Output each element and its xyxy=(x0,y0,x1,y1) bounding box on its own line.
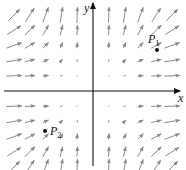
vector-arrow-icon xyxy=(165,147,178,156)
vector-arrow-icon xyxy=(152,160,161,170)
vector-arrow-icon xyxy=(138,120,144,122)
vector-arrow-icon xyxy=(123,59,125,61)
vector-arrow-icon xyxy=(138,75,144,76)
vector-arrow-icon xyxy=(60,75,62,76)
vector-arrow-icon xyxy=(6,120,22,122)
vector-arrow-icon xyxy=(123,159,125,170)
vector-arrow-icon xyxy=(166,161,177,170)
vector-arrow-icon xyxy=(60,43,62,49)
vector-arrow-icon xyxy=(43,134,49,140)
vector-arrow-icon xyxy=(60,106,62,107)
vector-arrow-icon xyxy=(164,59,180,61)
vector-arrow-icon xyxy=(138,43,144,49)
vector-arrow-icon xyxy=(138,134,144,140)
vector-arrow-icon xyxy=(151,120,161,122)
vector-arrow-icon xyxy=(7,26,20,35)
vector-arrow-icon xyxy=(6,59,22,61)
vector-arrow-icon xyxy=(123,147,125,157)
vector-arrow-icon xyxy=(25,75,35,76)
vector-arrow-icon xyxy=(8,9,19,20)
point-p1-label: P1 xyxy=(148,33,159,50)
vector-arrow-icon xyxy=(25,134,35,140)
point-p2-label: P2 xyxy=(50,125,61,142)
vector-arrow-icon xyxy=(108,159,109,170)
vector-arrow-icon xyxy=(164,75,180,76)
vector-arrow-icon xyxy=(77,159,78,170)
vector-arrow-icon xyxy=(6,134,21,139)
vector-arrow-icon xyxy=(25,160,34,170)
vector-arrow-icon xyxy=(77,59,78,61)
vector-arrow-icon xyxy=(77,43,78,49)
vector-arrow-icon xyxy=(8,161,19,170)
vector-arrow-icon xyxy=(43,25,49,35)
vector-arrow-icon xyxy=(25,25,35,35)
vector-arrow-icon xyxy=(77,120,78,122)
vector-arrow-icon xyxy=(138,147,144,157)
vector-arrow-icon xyxy=(138,7,143,22)
vector-arrow-icon xyxy=(77,7,78,23)
vector-arrow-icon xyxy=(108,75,109,76)
vector-arrow-icon xyxy=(77,106,78,107)
vector-arrow-icon xyxy=(25,43,35,49)
vector-arrow-icon xyxy=(60,7,62,23)
vector-arrow-icon xyxy=(43,43,49,49)
vector-arrow-icon xyxy=(164,106,180,107)
vector-arrow-icon xyxy=(43,75,49,76)
vector-field-plot xyxy=(0,0,186,170)
vector-arrow-icon xyxy=(151,75,161,76)
vector-arrow-icon xyxy=(60,147,62,157)
vector-arrow-icon xyxy=(123,25,125,35)
vector-arrow-icon xyxy=(108,7,109,23)
vector-arrow-icon xyxy=(123,7,125,23)
vector-arrow-icon xyxy=(138,59,144,61)
vector-arrow-icon xyxy=(25,120,35,122)
vector-arrow-icon xyxy=(123,75,125,76)
vector-arrow-icon xyxy=(6,43,21,48)
vector-arrow-icon xyxy=(60,59,62,61)
vector-arrow-icon xyxy=(138,25,144,35)
vector-arrow-icon xyxy=(7,147,20,156)
point-p2-marker xyxy=(43,129,47,133)
vector-arrow-icon xyxy=(77,75,78,76)
vector-arrow-icon xyxy=(151,134,161,140)
vector-arrow-icon xyxy=(60,25,62,35)
vector-arrow-icon xyxy=(123,43,125,49)
vector-arrow-icon xyxy=(43,59,49,61)
vector-arrow-icon xyxy=(25,147,35,157)
vector-arrow-icon xyxy=(152,8,161,21)
vector-arrow-icon xyxy=(108,134,109,140)
vector-arrow-icon xyxy=(108,106,109,107)
vector-arrow-icon xyxy=(6,106,22,107)
vector-arrow-icon xyxy=(123,106,125,107)
vector-arrow-icon xyxy=(165,26,178,35)
vector-arrow-icon xyxy=(77,25,78,35)
vector-arrow-icon xyxy=(166,9,177,20)
vector-arrow-icon xyxy=(108,120,109,122)
vector-arrow-icon xyxy=(43,106,49,107)
vector-arrow-icon xyxy=(25,59,35,61)
vector-arrow-icon xyxy=(123,134,125,140)
vector-arrow-icon xyxy=(43,147,49,157)
vector-arrow-icon xyxy=(151,147,161,157)
vector-arrow-icon xyxy=(77,134,78,140)
vector-arrow-icon xyxy=(108,25,109,35)
vector-arrow-icon xyxy=(43,7,48,22)
vector-arrow-icon xyxy=(60,159,62,170)
vector-arrow-icon xyxy=(108,43,109,49)
vector-arrow-icon xyxy=(151,59,161,61)
vector-arrow-icon xyxy=(108,59,109,61)
vector-arrow-icon xyxy=(6,75,22,76)
y-axis-label: y xyxy=(84,2,89,14)
vector-arrow-icon xyxy=(164,134,179,139)
vector-arrow-icon xyxy=(43,159,48,170)
vector-arrow-icon xyxy=(138,106,144,107)
vector-arrow-icon xyxy=(25,8,34,21)
vector-arrow-icon xyxy=(77,147,78,157)
vector-arrow-icon xyxy=(43,120,49,122)
vector-arrow-icon xyxy=(151,106,161,107)
vector-arrow-icon xyxy=(164,43,179,48)
vector-arrow-icon xyxy=(25,106,35,107)
vector-arrow-icon xyxy=(123,120,125,122)
x-axis-label: x xyxy=(178,92,183,104)
vector-arrow-icon xyxy=(108,147,109,157)
